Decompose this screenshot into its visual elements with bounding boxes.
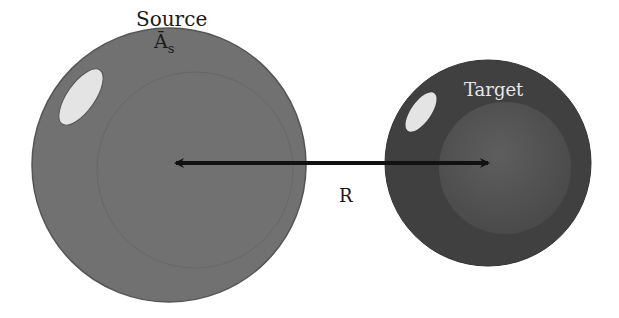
target-label: Target: [464, 79, 523, 100]
source-symbol-subscript: s: [168, 41, 175, 56]
source-symbol-main: Ā: [154, 30, 168, 52]
target-inner-circle: [439, 102, 571, 234]
distance-label: R: [339, 185, 353, 206]
source-label: Source: [136, 7, 207, 31]
diagram-canvas: [0, 0, 619, 318]
source-symbol: Ās: [154, 30, 174, 56]
